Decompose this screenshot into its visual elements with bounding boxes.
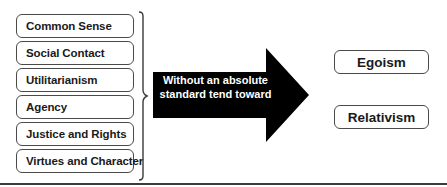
outcome-label: Relativism [348,110,416,125]
source-label: Agency [26,101,67,113]
outcome-box-relativism: Relativism [334,105,429,129]
outcome-label: Egoism [357,55,406,70]
arrow-caption-line-2: standard tend toward [153,88,278,102]
source-label: Virtues and Character [26,155,143,167]
source-box-agency: Agency [16,95,134,119]
source-label: Utilitarianism [26,74,97,86]
bottom-divider [0,183,447,185]
source-box-utilitarianism: Utilitarianism [16,68,134,92]
source-box-virtues-and-character: Virtues and Character [16,149,134,173]
source-label: Common Sense [26,20,112,32]
source-box-justice-and-rights: Justice and Rights [16,122,134,146]
arrow-caption: Without an absolute standard tend toward [153,74,278,101]
source-box-social-contact: Social Contact [16,41,134,65]
source-label: Social Contact [26,47,104,59]
outcome-box-egoism: Egoism [334,50,429,74]
curly-brace-icon [138,10,152,182]
source-label: Justice and Rights [26,128,126,140]
arrow-caption-line-1: Without an absolute [153,74,278,88]
source-box-common-sense: Common Sense [16,14,134,38]
